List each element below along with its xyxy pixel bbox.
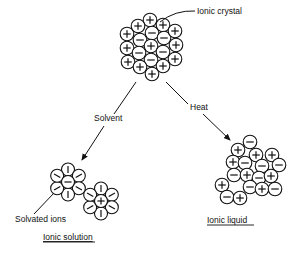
ionic-crystal-cluster	[120, 13, 183, 81]
heat-arrow-upper	[166, 82, 188, 104]
cation-icon	[264, 169, 278, 183]
cation-icon	[168, 52, 182, 66]
cation-icon	[255, 182, 269, 196]
cation-icon	[95, 195, 108, 208]
anion-icon	[268, 182, 282, 196]
ionic-states-diagram: Ionic crystal Solvent Heat Solvated ions…	[0, 0, 298, 255]
solvent-label: Solvent	[94, 113, 123, 123]
heat-label: Heat	[190, 102, 209, 112]
cation-icon	[233, 191, 247, 205]
anion-icon	[238, 156, 252, 170]
cation-icon	[240, 168, 254, 182]
anion-icon	[62, 176, 75, 189]
solvent-arrow-upper	[114, 82, 136, 114]
ionic-solution-label: Ionic solution	[43, 232, 93, 242]
solvated-ion-group	[84, 182, 119, 220]
cation-icon	[168, 24, 182, 38]
ionic-liquid-cluster	[215, 135, 286, 205]
anion-icon	[243, 135, 257, 149]
solvated-ions-label: Solvated ions	[15, 214, 66, 224]
solvent-arrow-icon	[82, 126, 104, 160]
heat-arrow-icon	[203, 114, 230, 140]
solvated-leader-line	[34, 193, 54, 214]
solvated-ion-group	[51, 163, 86, 201]
cation-icon	[133, 60, 147, 74]
anion-icon	[132, 46, 146, 60]
anion-icon	[243, 180, 257, 194]
anion-icon	[220, 190, 234, 204]
ionic-liquid-label: Ionic liquid	[207, 215, 247, 225]
anion-icon	[227, 168, 241, 182]
anion-icon	[156, 45, 170, 59]
ionic-crystal-label: Ionic crystal	[197, 6, 242, 16]
cation-icon	[169, 38, 183, 52]
cation-icon	[145, 67, 159, 81]
solvated-ions-cluster	[51, 163, 119, 220]
cation-icon	[120, 27, 134, 41]
